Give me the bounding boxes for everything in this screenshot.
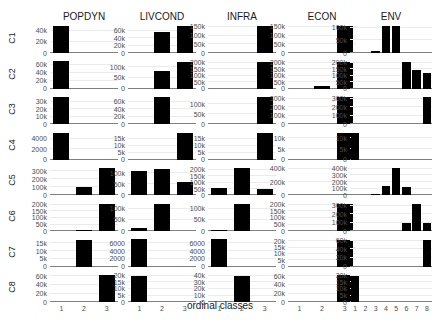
bar [154, 97, 170, 124]
bar [211, 239, 227, 266]
row-label-c8: C8 [7, 277, 17, 297]
gridline [350, 248, 432, 249]
y-tick-label: 15k [317, 279, 347, 286]
y-tick-label: 0 [255, 121, 285, 128]
bar [76, 240, 92, 266]
baseline [350, 266, 432, 267]
bar [351, 133, 360, 160]
y-tick-label: 20k [17, 106, 47, 113]
y-tick-label: 2000 [17, 146, 47, 153]
panel-c3-env [350, 96, 432, 124]
y-tick-label: 0 [17, 156, 47, 163]
y-tick-label: 10k [175, 292, 205, 299]
y-tick-label: 60k [255, 273, 285, 280]
y-tick-label: 100k [95, 64, 125, 71]
bar [412, 204, 421, 231]
panel-c1-env [350, 25, 432, 53]
y-tick-label: 150k [17, 208, 47, 215]
y-tick-label: 40k [175, 272, 205, 279]
bar [402, 187, 411, 195]
y-tick-label: 50k [95, 74, 125, 81]
y-tick-label: 0 [175, 263, 205, 270]
bar [53, 133, 69, 160]
y-tick-label: 100k [317, 24, 347, 31]
y-tick-label: 40k [317, 246, 347, 253]
bar [211, 188, 227, 195]
bar [53, 97, 69, 124]
y-tick-label: 10k [255, 250, 285, 257]
baseline [350, 159, 432, 160]
y-tick-label: 100k [317, 185, 347, 192]
bar [423, 240, 432, 267]
bar [371, 51, 380, 53]
gridline [350, 240, 432, 241]
y-tick-label: 100k [255, 32, 285, 39]
y-tick-label: 20k [175, 285, 205, 292]
row-label-c1: C1 [7, 28, 17, 48]
y-tick-label: 100k [255, 72, 285, 79]
y-tick-label: 150k [317, 66, 347, 73]
y-tick-label: 15k [255, 244, 285, 251]
y-tick-label: 10k [255, 135, 285, 142]
gridline [350, 275, 432, 276]
bar [412, 70, 421, 89]
y-tick-label: 5k [175, 149, 205, 156]
y-tick-label: 10k [317, 285, 347, 292]
y-tick-label: 50k [317, 37, 347, 44]
y-tick-label: 30k [175, 279, 205, 286]
y-tick-label: 15k [95, 135, 125, 142]
y-tick-label: 10k [95, 142, 125, 149]
y-tick-label: 40k [17, 27, 47, 34]
y-tick-label: 30k [17, 98, 47, 105]
y-tick-label: 100k [317, 112, 347, 119]
y-tick-label: 200k [317, 179, 347, 186]
y-tick-label: 100k [17, 214, 47, 221]
y-tick-label: 200k [317, 59, 347, 66]
column-title-livcond: LIVCOND [122, 11, 202, 22]
y-tick-label: 0 [175, 50, 205, 57]
y-tick-label: 0 [95, 263, 125, 270]
y-tick-label: 5k [255, 146, 285, 153]
y-tick-label: 0 [95, 192, 125, 199]
bar [392, 168, 401, 195]
bar [154, 32, 170, 53]
bar [382, 26, 391, 53]
bar [154, 169, 170, 196]
y-tick-label: 0 [255, 192, 285, 199]
y-tick-label: 5k [317, 292, 347, 299]
y-tick-label: 50k [175, 216, 205, 223]
y-tick-label: 100k [317, 72, 347, 79]
column-title-env: ENV [351, 11, 431, 22]
gridline [350, 62, 432, 63]
bar [371, 194, 380, 196]
y-tick-label: 0 [17, 263, 47, 270]
y-tick-label: 5k [255, 257, 285, 264]
y-tick-label: 10k [175, 142, 205, 149]
y-tick-label: 100k [95, 170, 125, 177]
y-tick-label: 20k [17, 290, 47, 297]
y-tick-label: 10k [17, 248, 47, 255]
y-tick-label: 0 [95, 156, 125, 163]
bar [402, 62, 411, 89]
y-tick-label: 6000 [175, 240, 205, 247]
y-tick-label: 6000 [95, 240, 125, 247]
bar [154, 204, 170, 231]
y-tick-label: 0 [317, 263, 347, 270]
y-tick-label: 10k [95, 285, 125, 292]
y-tick-label: 20k [95, 113, 125, 120]
y-tick-label: 5k [17, 255, 47, 262]
y-tick-label: 4000 [175, 248, 205, 255]
panel-c6-env [350, 203, 432, 231]
y-tick-label: 5k [95, 149, 125, 156]
y-tick-label: 50k [175, 186, 205, 193]
y-tick-label: 0 [317, 50, 347, 57]
x-axis-label: ordinal classes [0, 300, 440, 311]
y-tick-label: 10k [317, 135, 347, 142]
y-tick-label: 40k [255, 281, 285, 288]
y-tick-label: 40k [17, 69, 47, 76]
y-tick-label: 4000 [17, 135, 47, 142]
gridline [350, 148, 432, 149]
y-tick-label: 20k [255, 238, 285, 245]
baseline [350, 123, 432, 124]
y-tick-label: 0 [255, 228, 285, 235]
